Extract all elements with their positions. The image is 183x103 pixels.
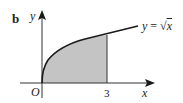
origin-label: O bbox=[31, 86, 40, 98]
curve-equation-label: y = √x bbox=[142, 20, 172, 32]
part-label: b bbox=[12, 12, 19, 25]
sqrt-symbol-icon: √ bbox=[160, 19, 167, 33]
equation-radicand: x bbox=[167, 19, 172, 33]
y-axis-label: y bbox=[30, 10, 35, 22]
equation-equals: = bbox=[147, 19, 160, 33]
x-axis-label: x bbox=[142, 87, 147, 99]
diagram-canvas bbox=[0, 0, 183, 103]
x-tick-3-label: 3 bbox=[104, 88, 110, 99]
